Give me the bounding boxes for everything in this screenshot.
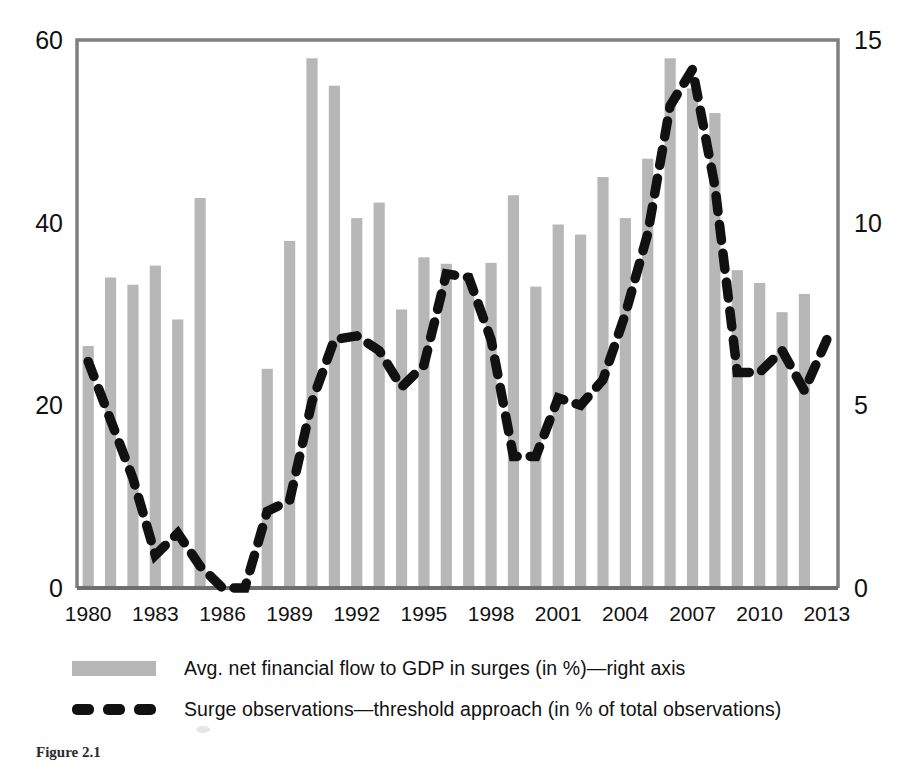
- bar-1984: [172, 319, 183, 588]
- bar-1982: [127, 285, 138, 588]
- bar-1980: [83, 346, 94, 588]
- legend-item-line: Surge observations—threshold approach (i…: [0, 689, 913, 730]
- x-axis-tick-2010: 2010: [736, 602, 783, 625]
- x-axis-tick-1995: 1995: [401, 602, 448, 625]
- left-axis-tick-20: 20: [35, 391, 63, 419]
- bar-1988: [262, 369, 273, 588]
- right-axis-tick-5: 5: [854, 391, 868, 419]
- x-axis-tick-1986: 1986: [199, 602, 246, 625]
- x-axis-tick-2013: 2013: [803, 602, 850, 625]
- figure-container: 0204060051015198019831986198919921995199…: [0, 0, 913, 763]
- bar-1998: [485, 263, 496, 588]
- chart-plot-area: 0204060051015198019831986198919921995199…: [0, 0, 913, 640]
- legend-item-bars: Avg. net financial flow to GDP in surges…: [0, 648, 913, 689]
- bar-1990: [306, 58, 317, 588]
- bar-1989: [284, 241, 295, 588]
- right-axis-tick-15: 15: [854, 26, 882, 54]
- x-axis-tick-2004: 2004: [602, 602, 649, 625]
- x-axis-tick-1989: 1989: [266, 602, 313, 625]
- left-axis-tick-40: 40: [35, 209, 63, 237]
- bar-1992: [351, 218, 362, 588]
- figure-caption: Figure 2.1: [36, 744, 101, 763]
- axis-frame: [77, 40, 838, 588]
- scan-artifact: [196, 726, 210, 733]
- bar-1995: [418, 257, 429, 588]
- legend-label-line: Surge observations—threshold approach (i…: [184, 698, 781, 721]
- bar-1996: [441, 264, 452, 588]
- right-axis-tick-10: 10: [854, 209, 882, 237]
- left-axis-tick-0: 0: [49, 574, 63, 602]
- left-axis-tick-60: 60: [35, 26, 63, 54]
- x-axis-tick-2001: 2001: [535, 602, 582, 625]
- dashed-line-swatch-icon: [72, 702, 156, 717]
- bar-1985: [195, 198, 206, 588]
- x-axis-tick-1992: 1992: [333, 602, 380, 625]
- bar-1993: [374, 203, 385, 588]
- bar-swatch-icon: [72, 661, 156, 676]
- chart-legend: Avg. net financial flow to GDP in surges…: [0, 648, 913, 730]
- bar-2004: [620, 218, 631, 588]
- bar-2000: [530, 287, 541, 588]
- bar-1994: [396, 309, 407, 588]
- right-axis-tick-0: 0: [854, 574, 868, 602]
- x-axis-tick-1998: 1998: [468, 602, 515, 625]
- x-axis-tick-2007: 2007: [669, 602, 716, 625]
- bar-2010: [754, 283, 765, 588]
- bar-2007: [687, 88, 698, 588]
- x-axis-tick-1980: 1980: [65, 602, 112, 625]
- bar-2012: [799, 294, 810, 588]
- x-axis-tick-1983: 1983: [132, 602, 179, 625]
- bar-1997: [463, 279, 474, 588]
- bar-2002: [575, 235, 586, 588]
- bar-1999: [508, 195, 519, 588]
- legend-label-bars: Avg. net financial flow to GDP in surges…: [184, 657, 685, 680]
- dual-axis-bar-line-chart: 0204060051015198019831986198919921995199…: [0, 0, 913, 640]
